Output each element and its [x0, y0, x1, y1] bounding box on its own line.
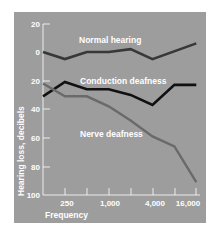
series-layer	[43, 43, 196, 182]
y-axis	[43, 24, 50, 195]
hearing-loss-chart: 20 0 20 40 60 80 100 250 1,000 4,000 16,…	[0, 0, 215, 234]
series-label-conduction-deafness: Conduction deafness	[80, 76, 167, 86]
x-tick-label: 1,000	[100, 199, 121, 208]
x-tick-label: 16,000	[176, 199, 201, 208]
series-label-normal-hearing: Normal hearing	[79, 35, 141, 45]
y-tick-label: 80	[31, 163, 40, 172]
x-axis-title: Frequency	[45, 210, 88, 220]
x-axis	[43, 188, 200, 195]
y-tick-label: 20	[31, 77, 40, 86]
y-tick-labels: 20 0 20 40 60 80 100	[27, 20, 41, 200]
series-line-normal-hearing	[43, 43, 196, 59]
y-tick-label: 20	[31, 20, 40, 29]
y-tick-label: 60	[31, 134, 40, 143]
y-tick-label: 40	[31, 105, 40, 114]
y-tick-label: 100	[27, 191, 41, 200]
x-tick-label: 4,000	[145, 199, 166, 208]
y-axis-title: Hearing loss, decibels	[16, 106, 26, 196]
x-tick-labels: 250 1,000 4,000 16,000	[60, 199, 200, 208]
x-tick-label: 250	[60, 199, 74, 208]
y-tick-label: 0	[36, 48, 41, 57]
series-label-nerve-deafness: Nerve deafness	[80, 129, 143, 139]
